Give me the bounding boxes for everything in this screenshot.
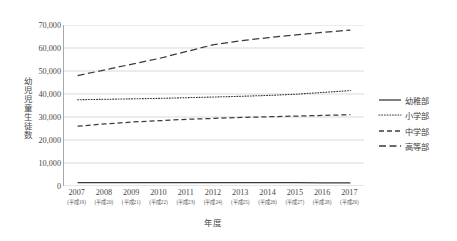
x-tick-era: (平成26) bbox=[258, 198, 277, 206]
x-tick-year: 2015 bbox=[285, 188, 304, 198]
x-axis-title: 年度 bbox=[63, 216, 363, 228]
x-axis-tick-label: 2008(平成20) bbox=[95, 188, 114, 206]
x-tick-year: 2013 bbox=[231, 188, 250, 198]
x-tick-era: (平成29) bbox=[340, 198, 359, 206]
x-tick-era: (平成27) bbox=[285, 198, 304, 206]
legend-line-icon bbox=[378, 126, 402, 136]
x-tick-era: (平成24) bbox=[204, 198, 223, 206]
x-tick-year: 2011 bbox=[176, 188, 195, 198]
y-axis-tick-label: 20,000 bbox=[7, 136, 61, 145]
series-line-longdash bbox=[78, 30, 351, 76]
legend-line-icon bbox=[378, 141, 402, 151]
x-tick-era: (平成23) bbox=[176, 198, 195, 206]
x-axis-tick-label: 2017(平成29) bbox=[340, 188, 359, 206]
x-axis-tick-label: 2013(平成25) bbox=[231, 188, 250, 206]
y-axis-tick-label: 0 bbox=[7, 182, 61, 191]
legend-line-icon bbox=[378, 95, 402, 105]
line-chart: 幼児児童生徒数 70,00060,00050,00040,00030,00020… bbox=[0, 0, 457, 241]
series-line-dotted bbox=[78, 91, 351, 100]
legend-label: 中学部 bbox=[402, 125, 429, 137]
x-tick-year: 2016 bbox=[313, 188, 332, 198]
y-axis-tick-label: 70,000 bbox=[7, 21, 61, 30]
x-tick-year: 2014 bbox=[258, 188, 277, 198]
x-axis-tick-label: 2012(平成24) bbox=[204, 188, 223, 206]
legend-item[interactable]: 高等部 bbox=[378, 139, 454, 155]
plot-area bbox=[63, 25, 363, 186]
y-axis-tick-label: 60,000 bbox=[7, 44, 61, 53]
legend-label: 小学部 bbox=[402, 109, 429, 121]
x-axis-tick-label: 2010(平成22) bbox=[149, 188, 168, 206]
legend-item[interactable]: 小学部 bbox=[378, 108, 454, 124]
y-axis-tick-labels: 70,00060,00050,00040,00030,00020,00010,0… bbox=[5, 0, 61, 241]
series-line-dashed bbox=[78, 115, 351, 127]
y-axis-tick-label: 40,000 bbox=[7, 90, 61, 99]
x-tick-era: (平成20) bbox=[95, 198, 114, 206]
legend-item[interactable]: 中学部 bbox=[378, 123, 454, 139]
x-tick-year: 2008 bbox=[95, 188, 114, 198]
y-axis-tick-label: 10,000 bbox=[7, 159, 61, 168]
x-tick-year: 2009 bbox=[122, 188, 141, 198]
x-tick-era: (平成25) bbox=[231, 198, 250, 206]
x-tick-year: 2007 bbox=[67, 188, 86, 198]
plot-svg bbox=[64, 25, 364, 186]
x-axis-tick-label: 2015(平成27) bbox=[285, 188, 304, 206]
x-axis-tick-label: 2016(平成28) bbox=[313, 188, 332, 206]
y-axis-tick-label: 50,000 bbox=[7, 67, 61, 76]
x-tick-year: 2017 bbox=[340, 188, 359, 198]
x-tick-year: 2010 bbox=[149, 188, 168, 198]
legend-line-icon bbox=[378, 110, 402, 120]
x-axis-tick-label: 2009(平成21) bbox=[122, 188, 141, 206]
x-tick-era: (平成28) bbox=[313, 198, 332, 206]
x-axis-tick-label: 2014(平成26) bbox=[258, 188, 277, 206]
x-axis-tick-labels: 2007(平成19)2008(平成20)2009(平成21)2010(平成22)… bbox=[63, 188, 363, 214]
chart-legend: 幼稚部小学部中学部高等部 bbox=[378, 92, 454, 154]
x-tick-era: (平成19) bbox=[67, 198, 86, 206]
legend-label: 高等部 bbox=[402, 140, 429, 152]
x-axis-tick-label: 2011(平成23) bbox=[176, 188, 195, 206]
y-axis-tick-label: 30,000 bbox=[7, 113, 61, 122]
legend-item[interactable]: 幼稚部 bbox=[378, 92, 454, 108]
x-axis-tick-label: 2007(平成19) bbox=[67, 188, 86, 206]
x-tick-era: (平成21) bbox=[122, 198, 141, 206]
x-tick-year: 2012 bbox=[204, 188, 223, 198]
x-tick-era: (平成22) bbox=[149, 198, 168, 206]
legend-label: 幼稚部 bbox=[402, 94, 429, 106]
